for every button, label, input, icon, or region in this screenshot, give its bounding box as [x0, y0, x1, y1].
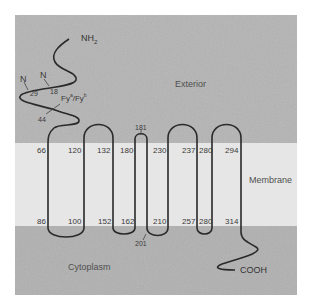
- residue-210: 210: [153, 218, 166, 226]
- cytoplasm-label: Cytoplasm: [68, 263, 111, 272]
- residue-132: 132: [97, 147, 110, 155]
- residue-201-loop: 201: [135, 240, 147, 247]
- residue-162: 162: [121, 218, 134, 226]
- glyco-site-n29-residue: 29: [30, 90, 38, 97]
- n-terminus-label: NH2: [81, 34, 97, 45]
- duffy-antigen-label: Fya/Fyb: [61, 95, 87, 103]
- residue-66: 66: [37, 147, 46, 155]
- residue-100: 100: [68, 218, 81, 226]
- residue-120: 120: [68, 147, 81, 155]
- antigen-residue-44: 44: [38, 116, 46, 123]
- residue-237: 237: [182, 147, 195, 155]
- residue-181-loop: 181: [135, 124, 147, 131]
- residue-294: 294: [225, 147, 238, 155]
- glyco-site-n18-label: N: [40, 71, 47, 80]
- exterior-region: [15, 15, 297, 143]
- membrane-label: Membrane: [249, 176, 292, 185]
- duffy-topology-diagram: Exterior Membrane Cytoplasm NH2 COOH N 2…: [0, 0, 311, 308]
- glyco-site-n18-residue: 18: [50, 88, 58, 95]
- residue-314: 314: [225, 218, 238, 226]
- exterior-label: Exterior: [175, 80, 206, 89]
- residue-280-bottom: 280: [199, 218, 212, 226]
- glyco-site-n29-label: N: [20, 75, 27, 84]
- residue-257: 257: [182, 218, 195, 226]
- c-terminus-label: COOH: [240, 266, 267, 275]
- residue-180: 180: [120, 147, 133, 155]
- residue-230: 230: [153, 147, 166, 155]
- residue-280-top: 280: [199, 147, 212, 155]
- residue-86: 86: [37, 218, 46, 226]
- residue-152: 152: [98, 218, 111, 226]
